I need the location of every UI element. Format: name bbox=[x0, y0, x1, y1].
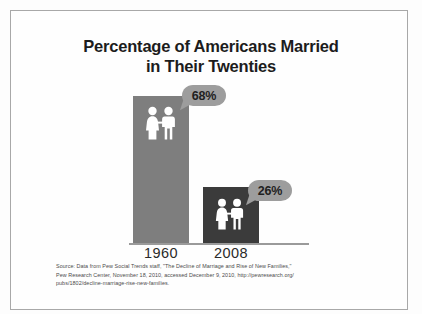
chart-plot-area bbox=[133, 96, 313, 243]
source-note-line-2: Pew Research Center, November 18, 2010, … bbox=[56, 271, 386, 280]
figure-page: Percentage of Americans Married in Their… bbox=[0, 0, 422, 314]
chart-title-line-1: Percentage of Americans Married bbox=[0, 36, 422, 56]
source-note-line-1: Source: Data from Pew Social Trends staf… bbox=[56, 262, 386, 271]
chart-title: Percentage of Americans Married in Their… bbox=[0, 36, 422, 76]
value-callout-2008: 26% bbox=[248, 180, 292, 201]
source-note: Source: Data from Pew Social Trends staf… bbox=[56, 262, 386, 288]
value-callout-1960: 68% bbox=[182, 85, 226, 106]
couple-pictogram-icon-2008 bbox=[213, 198, 247, 230]
value-callout-1960-label: 68% bbox=[192, 89, 216, 103]
couple-pictogram-icon-1960 bbox=[143, 106, 179, 140]
category-label-2008: 2008 bbox=[201, 245, 261, 261]
source-note-line-3: pubs/1802/decline-marriage-rise-new-fami… bbox=[56, 279, 386, 288]
value-callout-2008-label: 26% bbox=[258, 184, 282, 198]
category-label-1960: 1960 bbox=[131, 245, 191, 261]
chart-title-line-2: in Their Twenties bbox=[0, 56, 422, 76]
